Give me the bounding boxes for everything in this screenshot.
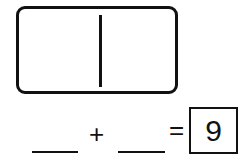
domino xyxy=(16,6,178,94)
addend2-blank[interactable] xyxy=(118,151,165,153)
addend1-blank[interactable] xyxy=(32,151,78,153)
equals-sign: = xyxy=(169,117,184,143)
sum-value: 9 xyxy=(205,114,222,148)
plus-sign: + xyxy=(89,121,104,147)
domino-divider xyxy=(99,15,102,87)
sum-box: 9 xyxy=(189,107,238,154)
